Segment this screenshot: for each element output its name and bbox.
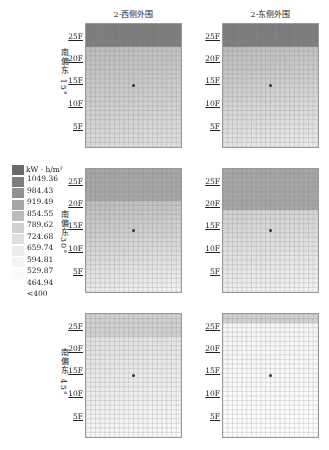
legend-label: 659.74 bbox=[27, 243, 53, 252]
y-tick-label: 25F bbox=[194, 178, 220, 186]
legend-swatch bbox=[12, 165, 24, 175]
col-title-east: 2-东侧外围 bbox=[222, 8, 319, 19]
y-tick-label: 25F bbox=[57, 323, 83, 331]
y-tick-label: 20F bbox=[194, 200, 220, 208]
y-tick-label: 5F bbox=[194, 123, 220, 131]
y-tick-label: 25F bbox=[194, 323, 220, 331]
col-title-west: 2-西侧外围 bbox=[85, 8, 182, 19]
marker-dot bbox=[269, 229, 272, 232]
y-tick-label: 20F bbox=[57, 200, 83, 208]
y-tick-label: 5F bbox=[194, 413, 220, 421]
y-tick-label: 20F bbox=[57, 55, 83, 63]
y-tick-label: 20F bbox=[194, 345, 220, 353]
legend-swatch bbox=[12, 234, 24, 244]
marker-dot bbox=[269, 84, 272, 87]
y-tick-label: 5F bbox=[57, 268, 83, 276]
legend-label: 789.62 bbox=[27, 220, 53, 229]
y-tick-label: 10F bbox=[57, 100, 83, 108]
y-tick-label: 15F bbox=[57, 367, 83, 375]
y-tick-label: 20F bbox=[57, 345, 83, 353]
legend-swatch bbox=[12, 257, 24, 267]
y-tick-label: 15F bbox=[194, 222, 220, 230]
y-tick-label: 5F bbox=[194, 268, 220, 276]
y-tick-label: 10F bbox=[194, 245, 220, 253]
legend-unit: kW · h/m² bbox=[26, 165, 63, 174]
y-tick-label: 25F bbox=[57, 178, 83, 186]
y-tick-label: 15F bbox=[57, 77, 83, 85]
y-tick-label: 25F bbox=[194, 33, 220, 41]
y-tick-label: 15F bbox=[57, 222, 83, 230]
legend-label: 464.94 bbox=[27, 278, 53, 287]
legend-swatch bbox=[12, 223, 24, 233]
legend-label: 594.81 bbox=[27, 255, 53, 264]
legend-label: 984.43 bbox=[27, 186, 53, 195]
legend-label: 854.55 bbox=[27, 209, 53, 218]
marker-dot bbox=[269, 374, 272, 377]
y-tick-label: 15F bbox=[194, 367, 220, 375]
legend-label: 1049.36 bbox=[27, 174, 58, 183]
marker-dot bbox=[132, 229, 135, 232]
legend-swatch bbox=[12, 188, 24, 198]
y-tick-label: 10F bbox=[57, 245, 83, 253]
marker-dot bbox=[132, 374, 135, 377]
marker-dot bbox=[132, 84, 135, 87]
y-tick-label: 10F bbox=[194, 390, 220, 398]
y-tick-label: 5F bbox=[57, 123, 83, 131]
legend-swatch bbox=[12, 246, 24, 256]
y-tick-label: 10F bbox=[57, 390, 83, 398]
y-tick-label: 5F bbox=[57, 413, 83, 421]
y-tick-label: 20F bbox=[194, 55, 220, 63]
legend-label: 919.49 bbox=[27, 197, 53, 206]
y-tick-label: 25F bbox=[57, 33, 83, 41]
legend-label: 529.87 bbox=[27, 266, 53, 275]
legend-swatch bbox=[12, 280, 24, 290]
legend-label: <400 bbox=[27, 289, 48, 298]
legend-label: 724.68 bbox=[27, 232, 53, 241]
y-tick-label: 15F bbox=[194, 77, 220, 85]
legend-swatch bbox=[12, 269, 24, 279]
y-tick-label: 10F bbox=[194, 100, 220, 108]
legend-swatch bbox=[12, 200, 24, 210]
legend-swatch bbox=[12, 211, 24, 221]
legend-swatch bbox=[12, 177, 24, 187]
